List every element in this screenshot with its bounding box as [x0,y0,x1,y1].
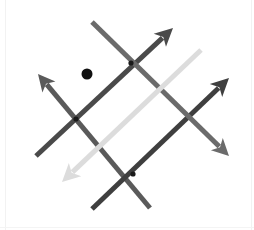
isolated-point [82,69,93,80]
intersection-node-bottom [130,171,135,176]
right-border-edge [251,0,252,230]
intersection-node-top [128,60,133,65]
diagram-canvas [0,0,254,230]
intersection-node-left [73,116,78,121]
bottom-border-edge [0,227,254,228]
canvas-background [0,0,254,230]
left-border-edge [5,0,6,230]
arrow-diagram-svg [0,0,254,230]
